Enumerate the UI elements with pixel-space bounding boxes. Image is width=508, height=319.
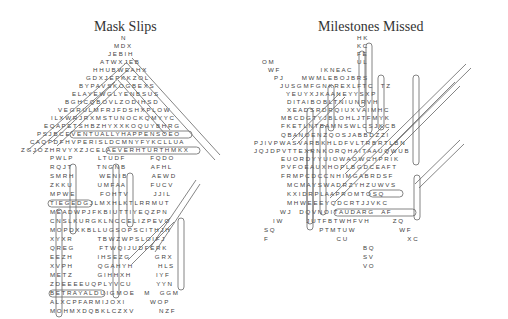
grid-row: D I T A I B O B L T N I U N R V H (287, 98, 377, 106)
grid-row: F C U X C (264, 235, 418, 243)
grid-row: V O (363, 262, 374, 270)
grid-row: W F I K N E A C (268, 66, 352, 74)
grid-row: P V F O E A U X H O P L B G D C E A F T (281, 163, 396, 171)
grid-row: P J I V P W A S V A R B K H L D F V L T … (254, 139, 405, 147)
grid-row: Q B A N O E N Z Q O S J A B B D Z Z I (281, 131, 388, 139)
grid-row: F E (357, 50, 367, 58)
grid-row: P J M W M L E B O J B R S (274, 74, 367, 82)
grid-row: K X I D R P L A A P R O M T O S Q (287, 190, 383, 198)
grid-row: H K (357, 34, 367, 42)
grid-row: Y E U Y X J K A A N E Y Y S X P (286, 90, 375, 98)
puzzle-title: Milestones Missed (318, 19, 423, 35)
grid-row: S V (363, 253, 373, 261)
grid-row: O M (262, 58, 274, 66)
grid-row: M C M A Y S W A D R Z Y H Z U W V S (287, 181, 395, 189)
grid-row: I W J U T F B T W H F V H Z Q (273, 217, 403, 225)
grid-row: X E A D S R D R Q I U X V A I M H C (287, 106, 388, 114)
puzzle-milestones-missed: Milestones Missed H KK CF EO MU LW F I K… (0, 0, 508, 319)
grid-row: F K E T L N T B A M N S W L C S J K C B (281, 122, 395, 130)
grid-row: E U O R D Y Y U I O W A O W C H P R I K (281, 155, 398, 163)
grid-row: J U S G M F G N K R E X L F T C T Z (280, 82, 390, 90)
grid-row: M B C D G T Y J B L O H L J T F M Y K (281, 114, 389, 122)
grid-row: K C (357, 42, 367, 50)
grid-row: F R M P C D C C N H I M G A B R D S F (281, 172, 392, 180)
grid-row: U L (357, 58, 367, 66)
grid-row: M H W E E E Y Q D C R T J J V K C (287, 199, 387, 207)
grid-row: B Q (363, 244, 374, 252)
grid-row: J Q J D P V T T E X R N K O R Q H A I T … (254, 147, 409, 155)
grid-row: W J D Q V N O I T A U D A R G A F (280, 208, 390, 216)
grid-row: S Q P T M T U W W F (264, 226, 411, 234)
